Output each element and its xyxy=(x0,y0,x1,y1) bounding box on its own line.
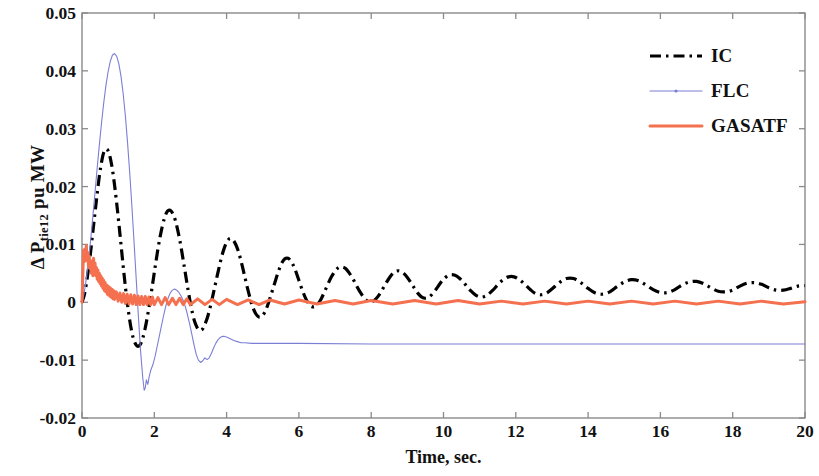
x-tick-label: 8 xyxy=(341,421,401,442)
legend-item-gasatf[interactable]: GASATF xyxy=(648,108,816,143)
legend-swatch-gasatf xyxy=(648,119,704,133)
x-tick-label: 14 xyxy=(558,421,618,442)
chart-figure: -0.02-0.0100.010.020.030.040.05 02468101… xyxy=(0,0,819,476)
y-axis-title: Δ Ptie12 pu MW xyxy=(27,77,49,337)
x-tick-label: 0 xyxy=(52,421,112,442)
legend-swatch-flc xyxy=(648,84,704,98)
legend-label: IC xyxy=(711,45,733,67)
x-axis-title: Time, sec. xyxy=(82,447,805,468)
x-tick-label: 10 xyxy=(414,421,474,442)
y-axis-title-suffix: pu MW xyxy=(27,145,48,214)
y-axis-title-subscript: tie12 xyxy=(37,214,51,241)
legend-label: GASATF xyxy=(711,115,788,137)
x-tick-label: 20 xyxy=(775,421,819,442)
x-tick-label: 6 xyxy=(269,421,329,442)
series-line-ic xyxy=(82,149,805,346)
x-tick-label: 2 xyxy=(124,421,184,442)
x-tick-label: 12 xyxy=(486,421,546,442)
legend-item-flc[interactable]: FLC xyxy=(648,73,816,108)
y-tick-label: -0.01 xyxy=(10,350,76,371)
legend-label: FLC xyxy=(711,80,750,102)
legend-swatch-ic xyxy=(648,49,704,63)
chart-legend: ICFLCGASATF xyxy=(648,38,816,143)
x-tick-label: 16 xyxy=(630,421,690,442)
x-tick-label: 18 xyxy=(703,421,763,442)
legend-item-ic[interactable]: IC xyxy=(648,38,816,73)
x-axis-tick-labels: 02468101214161820 xyxy=(0,421,819,449)
y-tick-label: 0.05 xyxy=(10,3,76,24)
y-axis-title-prefix: Δ P xyxy=(27,241,48,269)
x-tick-label: 4 xyxy=(197,421,257,442)
